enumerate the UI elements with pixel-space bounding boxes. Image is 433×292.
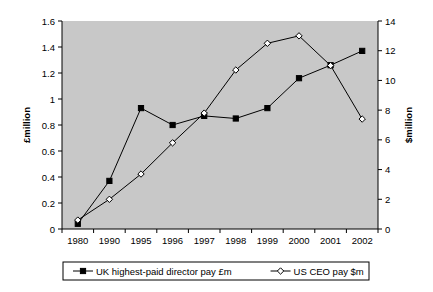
- chart-legend: UK highest-paid director pay £mUS CEO pa…: [63, 262, 369, 280]
- x-axis-tick-label: 1998: [225, 235, 246, 246]
- y-axis-left-tick-labels: 00.20.40.60.811.21.41.6: [42, 16, 55, 235]
- y-axis-left-tick-label: 0.4: [42, 172, 55, 183]
- y-axis-right-tick-label: 14: [385, 16, 396, 27]
- legend-label: US CEO pay $m: [294, 266, 364, 277]
- x-axis-tick-label: 1980: [67, 235, 88, 246]
- y-axis-left-tick-label: 1.6: [42, 16, 55, 27]
- y-axis-right-tick-label: 8: [385, 105, 390, 116]
- x-axis-tick-label: 2002: [352, 235, 373, 246]
- x-axis-tick-label: 1996: [162, 235, 183, 246]
- data-point-marker: [138, 106, 143, 111]
- y-axis-left-tick-label: 1.4: [42, 42, 55, 53]
- data-point-marker: [296, 76, 301, 81]
- x-axis-tick-label: 1995: [130, 235, 151, 246]
- y-axis-left-tick-label: 0: [50, 224, 55, 235]
- legend-label: UK highest-paid director pay £m: [96, 266, 232, 277]
- legend-marker-square-icon: [80, 268, 85, 273]
- y-axis-right-tick-label: 2: [385, 194, 390, 205]
- y-axis-right-tick-label: 0: [385, 224, 390, 235]
- y-axis-right-tick-label: 10: [385, 75, 396, 86]
- y-axis-left-title: £million: [21, 107, 32, 143]
- x-axis-tick-label: 2001: [320, 235, 341, 246]
- y-axis-left-tick-label: 1.2: [42, 68, 55, 79]
- data-point-marker: [265, 106, 270, 111]
- y-axis-left-tick-label: 0.2: [42, 198, 55, 209]
- x-axis-tick-label: 1990: [99, 235, 120, 246]
- x-axis-tick-label: 1999: [257, 235, 278, 246]
- x-axis-tick-label: 1997: [194, 235, 215, 246]
- data-point-marker: [107, 178, 112, 183]
- y-axis-left-tick-label: 0.6: [42, 146, 55, 157]
- y-axis-left-tick-label: 1: [50, 94, 55, 105]
- y-axis-right-title: $million: [403, 107, 414, 143]
- data-point-marker: [170, 122, 175, 127]
- legend-items: UK highest-paid director pay £mUS CEO pa…: [73, 266, 364, 277]
- y-axis-right-tick-label: 4: [385, 164, 390, 175]
- dual-axis-line-chart: 00.20.40.60.811.21.41.6 02468101214 1980…: [0, 0, 433, 292]
- data-point-marker: [360, 48, 365, 53]
- chart-container: 00.20.40.60.811.21.41.6 02468101214 1980…: [0, 0, 433, 292]
- y-axis-right-tick-label: 6: [385, 134, 390, 145]
- data-point-marker: [233, 116, 238, 121]
- y-axis-left-tick-label: 0.8: [42, 120, 55, 131]
- y-axis-right-tick-label: 12: [385, 45, 396, 56]
- x-axis-tick-label: 2000: [288, 235, 309, 246]
